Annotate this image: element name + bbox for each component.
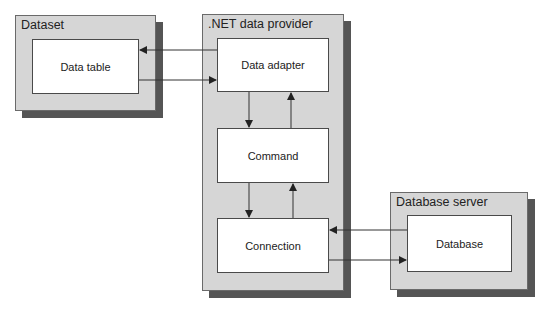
provider-group-title: .NET data provider: [208, 17, 313, 31]
command-label: Command: [248, 150, 299, 162]
data-adapter-node: Data adapter: [217, 38, 329, 92]
dataset-group-title: Dataset: [21, 18, 64, 32]
database-node: Database: [407, 215, 512, 272]
data-adapter-label: Data adapter: [241, 59, 305, 71]
database-server-group-title: Database server: [396, 195, 488, 209]
connection-node: Connection: [217, 218, 329, 273]
connection-label: Connection: [245, 240, 301, 252]
data-table-label: Data table: [60, 61, 110, 73]
command-node: Command: [217, 128, 329, 183]
data-table-node: Data table: [32, 39, 139, 94]
database-label: Database: [436, 238, 483, 250]
